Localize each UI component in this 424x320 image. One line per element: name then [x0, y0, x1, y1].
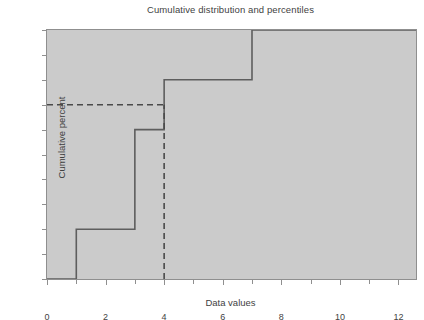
x-axis-label: Data values [46, 297, 415, 308]
x-minor-tick-mark [135, 280, 136, 284]
y-tick-mark [42, 254, 47, 255]
x-tick-label: 10 [320, 312, 360, 320]
x-tick-label: 12 [378, 312, 418, 320]
y-tick-mark [42, 55, 47, 56]
y-tick-mark [42, 229, 47, 230]
x-tick-label: 0 [27, 312, 67, 320]
ecdf-step-line [47, 30, 416, 279]
x-tick-mark [281, 280, 282, 285]
x-tick-mark [164, 280, 165, 285]
plot-area: Cumulative percent 0%10%20%30%40%50%60%7… [46, 29, 417, 280]
x-tick-mark [398, 280, 399, 285]
y-tick-mark [42, 155, 47, 156]
x-tick-mark [340, 280, 341, 285]
x-tick-mark [106, 280, 107, 285]
x-tick-label: 8 [261, 312, 301, 320]
ecdf-step-line-group [47, 30, 416, 279]
x-tick-mark [223, 280, 224, 285]
y-tick-mark [42, 130, 47, 131]
x-minor-tick-mark [76, 280, 77, 284]
x-minor-tick-mark [252, 280, 253, 284]
y-tick-mark [42, 204, 47, 205]
y-tick-mark [42, 105, 47, 106]
x-tick-label: 2 [86, 312, 126, 320]
x-minor-tick-mark [369, 280, 370, 284]
y-tick-mark [42, 179, 47, 180]
chart-figure: Cumulative distribution and percentiles … [0, 0, 424, 320]
plot-svg [47, 30, 416, 279]
chart-title: Cumulative distribution and percentiles [46, 4, 415, 15]
x-minor-tick-mark [311, 280, 312, 284]
x-tick-label: 4 [144, 312, 184, 320]
y-tick-mark [42, 30, 47, 31]
x-minor-tick-mark [193, 280, 194, 284]
x-tick-mark [47, 280, 48, 285]
x-tick-label: 6 [203, 312, 243, 320]
y-tick-mark [42, 80, 47, 81]
y-axis-label: Cumulative percent [56, 78, 67, 198]
